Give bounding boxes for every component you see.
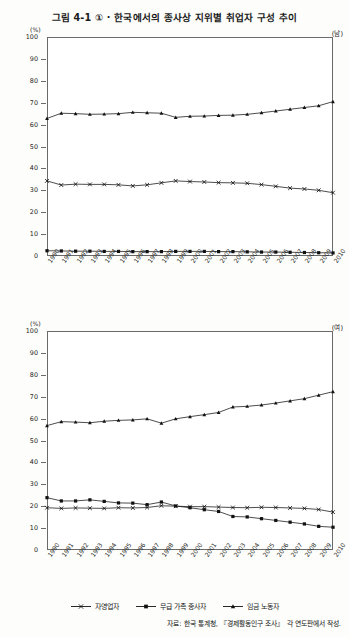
y-axis-tick-label: 30 [30, 480, 38, 488]
y-axis-unit-label: (%) [30, 26, 41, 33]
y-axis-tick-label: 40 [30, 164, 38, 172]
y-axis-tick-label: 20 [30, 502, 38, 510]
series-marker [45, 249, 48, 252]
series-marker [331, 390, 335, 393]
series-marker [331, 100, 335, 103]
series-layer-female [47, 331, 333, 550]
y-axis-tick [41, 212, 46, 213]
y-axis-tick [41, 190, 46, 191]
square-marker [135, 602, 157, 611]
panel-tag-female: (여) [332, 322, 343, 332]
series-marker [246, 515, 249, 518]
y-axis-tick-label: 10 [30, 230, 38, 238]
y-axis-labels-male: 0102030405060708090100 [0, 37, 44, 256]
legend-item[interactable]: 자영업자 [70, 601, 119, 611]
y-axis-tick [41, 441, 46, 442]
legend-label: 무급 가족 종사자 [160, 601, 206, 611]
series-marker [274, 519, 277, 522]
y-axis-tick-label: 40 [30, 458, 38, 466]
y-axis-tick [41, 462, 46, 463]
series-marker [60, 499, 63, 502]
y-axis-tick [41, 103, 46, 104]
y-axis-tick [41, 125, 46, 126]
y-axis-tick-label: 90 [30, 349, 38, 357]
series-marker [317, 251, 320, 254]
y-axis-tick [41, 353, 46, 354]
series-marker [331, 526, 334, 529]
x-axis-tick-label: 2010 [332, 247, 347, 264]
x-axis-labels-male: 1990199119921993199419951996199719981999… [47, 258, 333, 306]
y-axis-tick [41, 375, 46, 376]
y-axis-tick-label: 70 [30, 99, 38, 107]
y-axis-tick-label: 60 [30, 121, 38, 129]
y-axis-tick-label: 100 [26, 33, 38, 41]
series-marker [74, 499, 77, 502]
y-axis-tick [41, 234, 46, 235]
source-note: 자료: 한국 통계청, 『경제활동인구 조사』 각 연도판에서 작성. [167, 618, 341, 628]
y-axis-tick-label: 0 [34, 252, 38, 260]
y-axis-tick-label: 90 [30, 55, 38, 63]
y-axis-tick [41, 81, 46, 82]
figure-title: 그림 4-1 ① · 한국에서의 종사상 지위별 취업자 구성 추이 [0, 10, 349, 24]
y-axis-tick-label: 50 [30, 143, 38, 151]
legend-item[interactable]: 임금 노동자 [222, 601, 279, 611]
series-marker [317, 525, 320, 528]
y-axis-tick-label: 10 [30, 524, 38, 532]
series-line [47, 392, 333, 426]
y-axis-tick-label: 60 [30, 415, 38, 423]
y-axis-labels-female: 0102030405060708090100 [0, 331, 44, 550]
series-marker [188, 506, 191, 509]
y-axis-tick [41, 147, 46, 148]
y-axis-tick [41, 484, 46, 485]
y-axis-unit-label: (%) [30, 320, 41, 327]
chart-panel-female: (%) (여) 0102030405060708090100 199019911… [0, 320, 349, 605]
legend-item[interactable]: 무급 가족 종사자 [135, 601, 206, 611]
chart-panel-male: (%) (남) 0102030405060708090100 199019911… [0, 26, 349, 311]
series-layer-male [47, 37, 333, 256]
series-marker [260, 517, 263, 520]
series-marker [174, 504, 177, 507]
panel-tag-male: (남) [332, 28, 343, 38]
x-marker [70, 602, 92, 611]
y-axis-tick-label: 80 [30, 77, 38, 85]
y-axis-tick-label: 100 [26, 327, 38, 335]
series-marker [217, 510, 220, 513]
series-marker [303, 522, 306, 525]
series-marker [160, 500, 163, 503]
series-line [47, 181, 333, 193]
legend-label: 자영업자 [95, 601, 119, 611]
series-marker [231, 515, 234, 518]
y-axis-tick [41, 419, 46, 420]
y-axis-tick-label: 80 [30, 371, 38, 379]
x-axis-tick-label: 2010 [332, 541, 347, 558]
triangle-marker [222, 602, 244, 611]
y-axis-tick [41, 168, 46, 169]
y-axis-tick-label: 30 [30, 186, 38, 194]
chart-legend: 자영업자무급 가족 종사자임금 노동자 [0, 601, 349, 611]
series-marker [103, 500, 106, 503]
series-marker [117, 501, 120, 504]
y-axis-tick [41, 397, 46, 398]
series-marker [88, 498, 91, 501]
y-axis-tick [41, 59, 46, 60]
y-axis-tick [41, 528, 46, 529]
y-axis-tick-label: 50 [30, 437, 38, 445]
y-axis-tick-label: 0 [34, 546, 38, 554]
y-axis-tick-label: 20 [30, 208, 38, 216]
series-marker [45, 496, 48, 499]
x-axis-labels-female: 1990199119921993199419951996199719981999… [47, 552, 333, 600]
series-marker [145, 503, 148, 506]
series-marker [131, 502, 134, 505]
y-axis-tick-label: 70 [30, 393, 38, 401]
series-marker [288, 521, 291, 524]
legend-label: 임금 노동자 [247, 601, 279, 611]
series-marker [203, 508, 206, 511]
